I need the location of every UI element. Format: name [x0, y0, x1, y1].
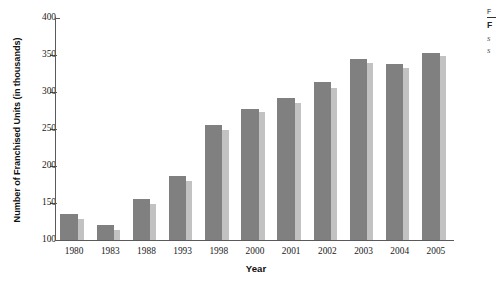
bar: [350, 59, 367, 240]
side-caption-rule: [487, 17, 496, 18]
bar: [114, 230, 120, 240]
chart-figure: Number of Franchised Units (in thousands…: [0, 0, 502, 285]
y-tick-label: 350: [10, 49, 56, 59]
x-axis-line: [55, 240, 454, 241]
x-tick-label: 2003: [345, 246, 381, 256]
side-caption-heading: F: [487, 20, 502, 30]
x-axis-title: Year: [0, 263, 502, 274]
bar: [386, 64, 403, 240]
x-tick-label: 2001: [273, 246, 309, 256]
y-tick-label: 150: [10, 197, 56, 207]
x-tick-label: 1980: [56, 246, 92, 256]
bar: [259, 112, 265, 240]
x-tick-label: 1998: [201, 246, 237, 256]
y-axis-ticks: 100150200250300350400: [0, 0, 56, 285]
x-tick-label: 1983: [92, 246, 128, 256]
bar: [97, 225, 114, 240]
bar: [78, 219, 84, 240]
x-tick-label: 1988: [128, 246, 164, 256]
bar: [169, 176, 186, 240]
bar: [222, 130, 228, 240]
bar-group: [201, 18, 237, 240]
bar-group: [273, 18, 309, 240]
x-tick-label: 2002: [309, 246, 345, 256]
y-tick-label: 200: [10, 160, 56, 170]
bar: [422, 53, 439, 240]
bar-group: [418, 18, 454, 240]
x-tick-label: 1993: [165, 246, 201, 256]
y-tick-label: 250: [10, 123, 56, 133]
bar-group: [56, 18, 92, 240]
side-caption: F F S S: [487, 8, 502, 54]
bar: [295, 103, 301, 240]
bar: [277, 98, 294, 240]
bar: [331, 88, 337, 240]
y-tick-label: 400: [10, 12, 56, 22]
y-tick-label: 300: [10, 86, 56, 96]
bar: [150, 204, 156, 240]
y-tick-label: 100: [10, 234, 56, 244]
bar: [440, 56, 446, 240]
side-caption-note2: S: [487, 47, 502, 54]
side-caption-line1: F: [487, 8, 502, 15]
x-tick-label: 2004: [382, 246, 418, 256]
bar-group: [345, 18, 381, 240]
bar: [314, 82, 331, 240]
bar-group: [92, 18, 128, 240]
bar: [133, 199, 150, 240]
bar: [186, 181, 192, 240]
bar: [367, 63, 373, 240]
bar-group: [309, 18, 345, 240]
bar: [60, 214, 77, 240]
bar-group: [128, 18, 164, 240]
side-caption-note1: S: [487, 35, 502, 42]
bar: [403, 68, 409, 240]
bar-group: [382, 18, 418, 240]
bar-group: [237, 18, 273, 240]
x-tick-label: 2005: [418, 246, 454, 256]
bar: [205, 125, 222, 240]
x-tick-label: 2000: [237, 246, 273, 256]
bar: [241, 109, 258, 240]
bar-group: [165, 18, 201, 240]
